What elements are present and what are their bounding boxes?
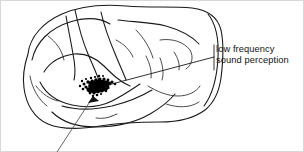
middle-temporal-sulcus: [96, 116, 112, 118]
annotation-label-line-1: low frequency: [216, 44, 275, 55]
middle-frontal-fold: [48, 36, 64, 60]
intraparietal-sulcus: [136, 30, 153, 58]
precentral-sulcus: [66, 16, 75, 80]
brain-illustration: [0, 0, 304, 152]
cerebrum-outline: [23, 5, 223, 128]
parietal-gyrus-mark: [116, 40, 133, 57]
arrow-pointer-icon: [57, 96, 99, 152]
postcentral-sulcus: [101, 12, 126, 80]
temporal-tick: [112, 114, 117, 116]
brain-outline-group: [23, 5, 223, 128]
brain-diagram-figure: low frequency sound perception: [0, 0, 304, 152]
orbital-frontal-arc: [30, 76, 47, 106]
leader-line-icon: [108, 45, 214, 85]
posterior-inferior-fold: [166, 102, 199, 107]
occipital-lobule: [160, 39, 192, 69]
angular-gyrus-mark-b: [160, 58, 163, 80]
parietal-sulcus: [118, 20, 199, 44]
annotation-label-line-2: sound perception: [216, 55, 289, 66]
central-sulcus: [75, 10, 100, 84]
